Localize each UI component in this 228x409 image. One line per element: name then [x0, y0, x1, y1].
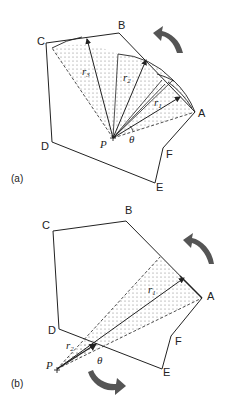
- sector-r3: [52, 45, 118, 138]
- rotation-arrow-ccw-icon: [183, 233, 214, 264]
- vertex-a-label: A: [198, 107, 206, 119]
- panel-b: C B A F E D P θ r1 r2 (b): [11, 204, 215, 395]
- panel-b-caption: (b): [11, 378, 23, 389]
- angle-theta-label: θ: [129, 133, 135, 145]
- point-p-label: P: [45, 359, 53, 371]
- vertex-b-label: B: [125, 204, 132, 216]
- panel-a-caption: (a): [11, 173, 23, 184]
- vertex-a-label: A: [207, 290, 215, 302]
- panel-a: C B A F E D P θ r3 r2 r1 (a): [11, 19, 206, 193]
- rotation-arrow-ccw-icon: [153, 26, 183, 53]
- vertex-b-label: B: [118, 19, 125, 31]
- vertex-e-label: E: [156, 181, 163, 193]
- radius-r2: [57, 344, 96, 369]
- angle-theta-label: θ: [97, 354, 103, 366]
- vertex-f-label: F: [175, 335, 182, 347]
- radius-r2-label: r2: [66, 339, 74, 353]
- vertex-c-label: C: [37, 35, 45, 47]
- vertex-d-label: D: [41, 140, 49, 152]
- vertex-f-label: F: [166, 148, 173, 160]
- vertex-d-label: D: [48, 324, 56, 336]
- diagram-canvas: C B A F E D P θ r3 r2 r1 (a) C B A F E: [0, 0, 228, 409]
- vertex-e-label: E: [163, 366, 170, 378]
- point-p-label: P: [99, 138, 107, 150]
- radius-r1: [57, 278, 184, 369]
- rotation-arrow-cw-icon: [88, 370, 126, 395]
- vertex-c-label: C: [42, 219, 50, 231]
